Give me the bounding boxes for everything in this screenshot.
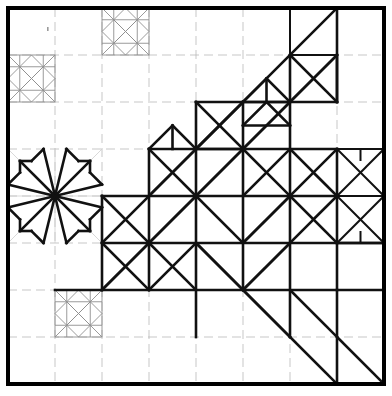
pencil-mark [47, 27, 49, 31]
quilt-design-svg [0, 0, 392, 396]
design-canvas [0, 0, 392, 396]
